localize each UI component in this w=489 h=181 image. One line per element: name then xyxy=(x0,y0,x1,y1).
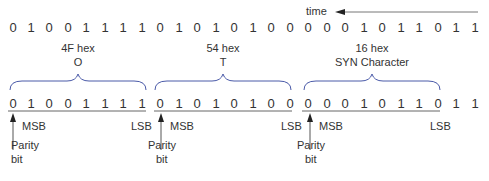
bottom-bit: 0 xyxy=(432,96,444,111)
top-bit: 1 xyxy=(25,20,37,35)
top-bit: 1 xyxy=(413,20,425,35)
bottom-bit: 1 xyxy=(173,96,185,111)
top-bit: 0 xyxy=(7,20,19,35)
top-bit: 1 xyxy=(247,20,259,35)
top-bit: 1 xyxy=(80,20,92,35)
bottom-bit: 1 xyxy=(395,96,407,111)
top-bit: 0 xyxy=(154,20,166,35)
top-bit: 0 xyxy=(265,20,277,35)
group-1-char-label: O xyxy=(74,56,83,68)
top-bit: 1 xyxy=(469,20,481,35)
top-bit: 1 xyxy=(358,20,370,35)
bottom-bit: 0 xyxy=(43,96,55,111)
bottom-bit: 1 xyxy=(450,96,462,111)
top-bit: 1 xyxy=(450,20,462,35)
bottom-bit: 0 xyxy=(154,96,166,111)
bottom-bit: 1 xyxy=(99,96,111,111)
top-bit: 1 xyxy=(99,20,111,35)
parity-label-3-line1: Parity xyxy=(297,139,325,151)
group-2-hex-label: 54 hex xyxy=(206,42,239,54)
brace-group-2 xyxy=(155,74,291,90)
top-bit: 0 xyxy=(62,20,74,35)
top-bit: 0 xyxy=(339,20,351,35)
parity-label-3-line2: bit xyxy=(305,153,317,165)
bottom-bit: 0 xyxy=(62,96,74,111)
bottom-bit: 0 xyxy=(7,96,19,111)
bottom-bit: 0 xyxy=(339,96,351,111)
top-bit: 0 xyxy=(228,20,240,35)
top-bit: 1 xyxy=(136,20,148,35)
parity-label-2-line2: bit xyxy=(156,153,168,165)
bottom-bit: 1 xyxy=(247,96,259,111)
bottom-bit: 0 xyxy=(284,96,296,111)
top-bit: 1 xyxy=(117,20,129,35)
bottom-bit: 0 xyxy=(376,96,388,111)
group-1-hex-label: 4F hex xyxy=(61,42,95,54)
top-bit: 0 xyxy=(321,20,333,35)
bottom-bit: 0 xyxy=(228,96,240,111)
bottom-bit: 1 xyxy=(136,96,148,111)
parity-label-1-line2: bit xyxy=(11,153,23,165)
lsb-label-1: LSB xyxy=(131,120,152,132)
bottom-bit: 0 xyxy=(302,96,314,111)
bottom-bit: 1 xyxy=(210,96,222,111)
group-2-char-label: T xyxy=(220,56,227,68)
msb-label-1: MSB xyxy=(22,120,46,132)
group-3-char-label: SYN Character xyxy=(335,56,409,68)
msb-label-2: MSB xyxy=(170,120,194,132)
top-bit: 0 xyxy=(43,20,55,35)
bottom-bit: 1 xyxy=(469,96,481,111)
brace-group-3 xyxy=(304,74,440,90)
bottom-bit: 1 xyxy=(117,96,129,111)
top-bit: 0 xyxy=(376,20,388,35)
bottom-bit: 1 xyxy=(358,96,370,111)
group-3-hex-label: 16 hex xyxy=(355,42,388,54)
top-bit: 0 xyxy=(191,20,203,35)
parity-label-1-line1: Parity xyxy=(11,139,39,151)
bottom-bit: 0 xyxy=(191,96,203,111)
top-bit: 0 xyxy=(302,20,314,35)
top-bit: 1 xyxy=(173,20,185,35)
time-arrow-icon xyxy=(335,9,478,15)
bottom-bit: 1 xyxy=(25,96,37,111)
bottom-bit: 0 xyxy=(321,96,333,111)
time-label: time xyxy=(306,5,327,17)
top-bit: 1 xyxy=(395,20,407,35)
lsb-label-3: LSB xyxy=(430,120,451,132)
bottom-bit: 0 xyxy=(265,96,277,111)
bottom-bit: 1 xyxy=(80,96,92,111)
top-bit: 0 xyxy=(432,20,444,35)
brace-group-1 xyxy=(10,74,146,90)
top-bit: 0 xyxy=(284,20,296,35)
parity-label-2-line1: Parity xyxy=(148,139,176,151)
top-bit: 1 xyxy=(210,20,222,35)
lsb-label-2: LSB xyxy=(281,120,302,132)
bottom-bit: 1 xyxy=(413,96,425,111)
msb-label-3: MSB xyxy=(319,120,343,132)
